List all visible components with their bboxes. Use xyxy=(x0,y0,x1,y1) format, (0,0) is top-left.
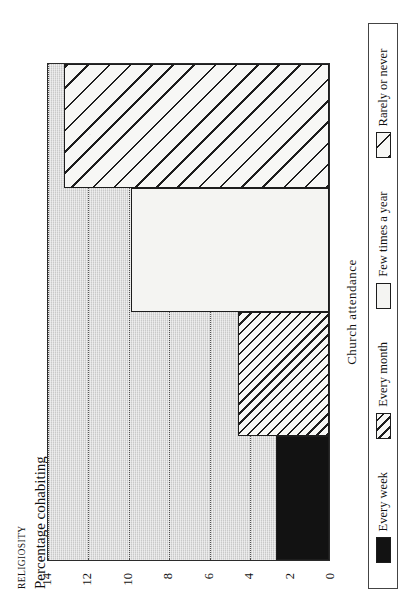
bar-slot xyxy=(48,188,329,312)
legend-item-rarely-or-never[interactable]: Rarely or never xyxy=(376,49,391,159)
y-axis-tick-label: 6 xyxy=(201,573,216,579)
bar-every-month[interactable] xyxy=(238,312,329,436)
y-axis-tick-label: 0 xyxy=(323,573,338,579)
bar-few-times-a-year[interactable] xyxy=(131,188,329,312)
x-axis-label: Church attendance xyxy=(344,63,360,561)
figure-heading: RELIGIOSITY Percentage cohabiting xyxy=(18,456,49,589)
legend-item-few-times-a-year[interactable]: Few times a year xyxy=(376,192,391,309)
bar-slot xyxy=(48,64,329,188)
plot-area xyxy=(47,63,330,561)
y-axis-tick-label: 10 xyxy=(120,573,135,586)
legend-item-every-week[interactable]: Every week xyxy=(376,472,391,563)
legend-item-label: Every month xyxy=(376,342,391,407)
y-axis-tick-label: 2 xyxy=(282,573,297,579)
chart-page: RELIGIOSITY Percentage cohabiting 024681… xyxy=(0,0,409,611)
y-axis-tick-label: 14 xyxy=(40,573,55,586)
y-axis-tick-label: 8 xyxy=(161,573,176,579)
legend-swatch-icon xyxy=(376,413,391,439)
figure: RELIGIOSITY Percentage cohabiting 024681… xyxy=(0,0,409,611)
y-axis: 02468101214 xyxy=(47,565,330,611)
legend-item-label: Rarely or never xyxy=(376,49,391,127)
bar-every-week[interactable] xyxy=(276,436,329,560)
y-axis-tick-label: 12 xyxy=(80,573,95,586)
bar-rarely-or-never[interactable] xyxy=(64,64,329,188)
legend: Every weekEvery monthFew times a yearRar… xyxy=(368,23,398,589)
legend-item-label: Few times a year xyxy=(376,192,391,277)
rotated-figure-container: RELIGIOSITY Percentage cohabiting 024681… xyxy=(0,0,409,611)
legend-item-every-month[interactable]: Every month xyxy=(376,342,391,439)
figure-kicker: RELIGIOSITY xyxy=(18,456,28,589)
legend-swatch-icon xyxy=(376,537,391,563)
legend-swatch-icon xyxy=(376,283,391,309)
legend-swatch-icon xyxy=(376,132,391,158)
bars-group xyxy=(48,64,329,560)
bar-slot xyxy=(48,436,329,560)
legend-item-label: Every week xyxy=(376,472,391,531)
bar-slot xyxy=(48,312,329,436)
y-axis-tick-label: 4 xyxy=(242,573,257,579)
